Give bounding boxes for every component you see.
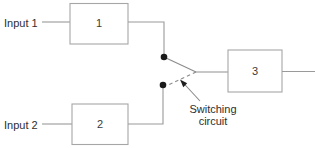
label-input-1: Input 1 bbox=[4, 17, 38, 29]
contact-dot-upper[interactable] bbox=[161, 54, 168, 61]
label-switching-line-2: circuit bbox=[181, 115, 245, 127]
contact-dot-lower[interactable] bbox=[160, 82, 167, 89]
block-2-label: 2 bbox=[72, 118, 128, 130]
switch-blade[interactable] bbox=[165, 58, 196, 73]
diagram-canvas: Input 1 Input 2 Switching circuit 1 2 3 bbox=[0, 0, 315, 148]
block-1-label: 1 bbox=[70, 17, 128, 29]
switch-blade-alternate bbox=[167, 72, 196, 86]
label-switching-circuit: Switching circuit bbox=[181, 103, 245, 127]
label-switching-line-1: Switching bbox=[181, 103, 245, 115]
block-3-label: 3 bbox=[228, 65, 282, 77]
label-input-2: Input 2 bbox=[4, 119, 38, 131]
wire-block-2-to-contact bbox=[128, 86, 163, 124]
wire-block-1-to-contact bbox=[128, 22, 164, 56]
